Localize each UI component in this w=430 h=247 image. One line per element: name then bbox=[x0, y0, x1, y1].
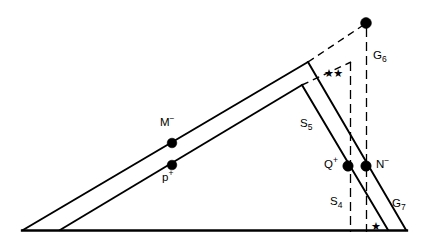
geometric-diagram: M− p+ Q+ N− S5 S4 G6 G7 ★★ ★ bbox=[0, 0, 430, 247]
label-m-minus: M− bbox=[160, 117, 175, 129]
label-q-plus: Q+ bbox=[324, 159, 338, 171]
outer-triangle-hypotenuse bbox=[23, 62, 308, 230]
label-g6: G6 bbox=[373, 50, 387, 62]
label-s4: S4 bbox=[330, 196, 342, 208]
label-n-minus: N− bbox=[376, 159, 389, 171]
dot-top-node bbox=[361, 18, 372, 29]
dashed-extension-outer bbox=[308, 26, 362, 62]
dot-q-plus bbox=[343, 161, 353, 171]
inner-triangle-hypotenuse bbox=[60, 85, 302, 230]
label-p-plus: p+ bbox=[162, 172, 173, 184]
dot-m-minus bbox=[167, 138, 177, 148]
diagram-canvas bbox=[0, 0, 430, 247]
label-s5: S5 bbox=[300, 118, 312, 130]
label-single-star: ★ bbox=[371, 221, 380, 232]
label-double-star: ★★ bbox=[324, 68, 343, 79]
label-g7: G7 bbox=[392, 198, 406, 210]
dot-n-minus bbox=[361, 161, 371, 171]
